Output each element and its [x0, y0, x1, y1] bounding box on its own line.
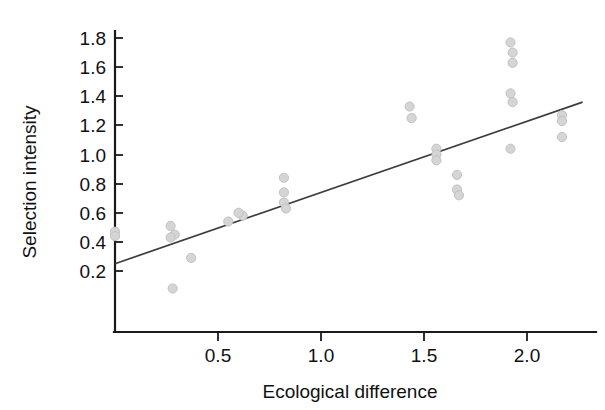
y-tick-label-1-0: 1.0	[80, 145, 106, 166]
data-point	[432, 156, 441, 165]
data-point	[405, 102, 414, 111]
data-point	[110, 232, 119, 241]
data-point	[557, 132, 566, 141]
y-tick-label-0-8: 0.8	[80, 174, 106, 195]
regression-trend-line	[115, 102, 583, 264]
y-tick-label-1-6: 1.6	[80, 57, 106, 78]
x-tick-label-0-5: 0.5	[205, 345, 231, 366]
data-point	[281, 204, 290, 213]
y-tick-label-0-4: 0.4	[80, 232, 107, 253]
x-axis-title: Ecological difference	[263, 381, 438, 402]
y-axis-title: Selection intensity	[19, 105, 40, 259]
data-point	[508, 58, 517, 67]
data-point	[166, 221, 175, 230]
chart-figure: 1.8 1.6 1.4 1.2 1.0 0.8 0.6 0.4 0.2 0.5 …	[0, 0, 605, 410]
data-point	[187, 253, 196, 262]
data-point	[506, 89, 515, 98]
data-point	[166, 233, 175, 242]
data-point	[168, 284, 177, 293]
data-point	[279, 188, 288, 197]
data-point	[508, 98, 517, 107]
x-axis-ticks	[218, 332, 527, 341]
data-points-group	[110, 38, 566, 293]
data-point	[407, 114, 416, 123]
data-point	[454, 191, 463, 200]
data-point	[506, 144, 515, 153]
data-point	[279, 173, 288, 182]
scatter-plot: 1.8 1.6 1.4 1.2 1.0 0.8 0.6 0.4 0.2 0.5 …	[0, 0, 605, 410]
y-tick-label-1-4: 1.4	[80, 86, 107, 107]
data-point	[234, 208, 243, 217]
x-tick-label-1-0: 1.0	[308, 345, 334, 366]
y-tick-label-1-8: 1.8	[80, 28, 106, 49]
data-point	[452, 170, 461, 179]
y-tick-label-1-2: 1.2	[80, 115, 106, 136]
x-tick-label-1-5: 1.5	[411, 345, 437, 366]
y-tick-label-0-6: 0.6	[80, 203, 106, 224]
data-point	[224, 217, 233, 226]
y-tick-label-0-2: 0.2	[80, 261, 106, 282]
x-tick-label-2-0: 2.0	[514, 345, 540, 366]
data-point	[506, 38, 515, 47]
data-point	[557, 116, 566, 125]
data-point	[508, 48, 517, 57]
